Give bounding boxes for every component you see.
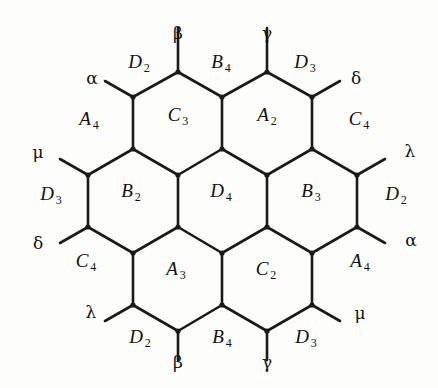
lattice-vertex (85, 224, 90, 229)
edge-label-subscript: 4 (89, 260, 97, 274)
greek-label-greek-bottom-left-lambda: λ (86, 304, 97, 321)
lattice-vertex (130, 146, 135, 151)
cell-label-cell-a2: A2 (257, 105, 276, 127)
greek-label-greek-bottom-gamma: γ (262, 354, 272, 371)
edge-label-letter: D (128, 51, 142, 72)
edge-label-letter: C (349, 108, 362, 129)
lattice-vertex (309, 250, 314, 255)
lattice-edge (133, 72, 178, 97)
lattice-vertex (309, 94, 314, 99)
cell-label-letter: A (257, 104, 269, 125)
lattice-vertex (85, 172, 90, 177)
cell-label-subscript: 3 (313, 190, 321, 204)
edge-label-subscript: 4 (362, 118, 370, 132)
lattice-edge (267, 227, 312, 253)
cell-label-subscript: 3 (178, 268, 186, 282)
dangling-bond-stub (60, 227, 88, 243)
cell-label-subscript: 4 (224, 190, 232, 204)
dangling-bond-stub (357, 227, 385, 243)
lattice-edge (178, 149, 222, 175)
edge-label-subscript: 2 (143, 336, 151, 350)
lattice-edge (267, 72, 312, 97)
cell-label-letter: D (210, 180, 224, 201)
edge-label-subscript: 3 (54, 193, 62, 207)
edge-label-edge-bottom-right: D3 (295, 327, 316, 349)
cell-label-subscript: 2 (269, 114, 277, 128)
edge-label-edge-mid-left: D3 (40, 184, 61, 206)
edge-label-subscript: 3 (309, 336, 317, 350)
cell-label-letter: C (168, 104, 181, 125)
dangling-bond-stub (60, 159, 88, 175)
greek-label-greek-bottom-right-mu: μ (354, 305, 365, 322)
dangling-bond-stub (357, 159, 385, 175)
edge-label-edge-top-left: D2 (128, 52, 149, 74)
edge-label-edge-top-right: D3 (294, 52, 315, 74)
lattice-vertex (264, 69, 269, 74)
lattice-edge (88, 227, 133, 253)
cell-label-letter: C (256, 258, 269, 279)
cell-label-cell-c3: C3 (168, 105, 188, 127)
edge-label-edge-bottom-left: D2 (129, 327, 150, 349)
edge-label-edge-top-middle: B4 (211, 52, 230, 74)
lattice-vertex (264, 224, 269, 229)
edge-label-subscript: 4 (223, 61, 231, 75)
edge-label-letter: A (350, 250, 362, 271)
lattice-edge (222, 72, 267, 97)
edge-label-subscript: 4 (91, 118, 99, 132)
lattice-vertex (309, 146, 314, 151)
edge-label-subscript: 3 (308, 61, 316, 75)
dangling-bond-stub (312, 305, 340, 321)
greek-label-greek-top-right-delta: δ (351, 70, 361, 87)
lattice-edge (88, 149, 133, 175)
lattice-edge (222, 227, 267, 253)
cell-label-cell-b2: B2 (121, 181, 140, 203)
greek-label-greek-top-beta: β (173, 25, 183, 42)
lattice-vertex (264, 328, 269, 333)
cell-label-cell-d4: D4 (210, 181, 231, 203)
lattice-vertex (175, 328, 180, 333)
cell-label-subscript: 2 (133, 190, 141, 204)
lattice-vertex (219, 94, 224, 99)
edge-label-letter: D (294, 51, 308, 72)
dangling-bond-stub (105, 81, 133, 97)
cell-label-cell-a3: A3 (166, 259, 185, 281)
lattice-edge (312, 149, 357, 175)
lattice-vertex (354, 172, 359, 177)
edge-label-subscript: 2 (399, 193, 407, 207)
lattice-vertex (354, 224, 359, 229)
greek-label-greek-top-left-alpha: α (86, 70, 97, 87)
edge-label-letter: A (79, 108, 91, 129)
lattice-vertex (175, 224, 180, 229)
lattice-vertex (309, 302, 314, 307)
edge-label-subscript: 4 (224, 336, 232, 350)
edge-label-letter: D (40, 183, 54, 204)
lattice-vertex (130, 94, 135, 99)
greek-label-greek-left-delta: δ (33, 235, 43, 252)
cell-label-letter: A (166, 258, 178, 279)
edge-label-edge-bottom-middle: B4 (212, 327, 231, 349)
cell-label-subscript: 3 (181, 114, 189, 128)
edge-label-letter: B (212, 326, 224, 347)
lattice-vertex (130, 302, 135, 307)
cell-label-cell-c2: C2 (256, 259, 276, 281)
lattice-vertex (175, 172, 180, 177)
greek-label-greek-right-alpha: α (405, 232, 416, 249)
lattice-edge (267, 149, 312, 175)
lattice-vertex (219, 250, 224, 255)
lattice-edge (222, 149, 267, 175)
edge-label-subscript: 2 (142, 61, 150, 75)
cell-label-cell-b3: B3 (301, 181, 320, 203)
hexagonal-lattice-figure: C3A2B2D4B3A3C2 D2B4D3A4C4D3D2C4A4D2B4D3 … (0, 0, 438, 388)
greek-label-greek-right-lambda: λ (405, 143, 416, 160)
greek-label-greek-top-gamma: γ (262, 25, 272, 42)
greek-label-greek-left-mu: μ (32, 144, 43, 161)
edge-label-letter: B (211, 51, 223, 72)
dangling-bond-stub (312, 81, 340, 97)
lattice-edge (133, 227, 178, 253)
lattice-edge (133, 149, 178, 175)
edge-label-edge-lower-right: A4 (350, 251, 369, 273)
edge-label-letter: C (76, 250, 89, 271)
lattice-edge (178, 72, 222, 97)
lattice-vertex (219, 302, 224, 307)
lattice-edge (178, 227, 222, 253)
